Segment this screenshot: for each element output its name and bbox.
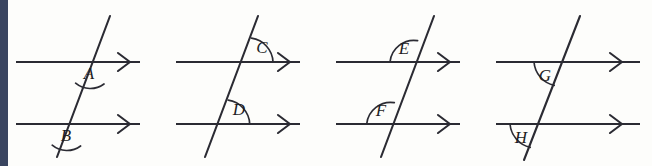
transversal-line bbox=[381, 16, 434, 157]
angle-arc-a bbox=[76, 83, 104, 88]
panel-2: C D bbox=[176, 16, 300, 157]
figure-canvas: A B C D E F bbox=[0, 0, 652, 166]
panel-1: A B bbox=[16, 16, 140, 157]
angle-label-d: D bbox=[232, 100, 246, 119]
angle-label-a: A bbox=[83, 64, 95, 83]
angle-label-c: C bbox=[256, 38, 268, 57]
angle-label-f: F bbox=[375, 101, 387, 120]
panel-3: E F bbox=[336, 16, 460, 157]
angle-arc-b bbox=[52, 145, 80, 150]
transversal-line bbox=[524, 16, 580, 160]
panel-4: G H bbox=[496, 16, 640, 160]
geometry-figure: A B C D E F bbox=[0, 0, 652, 166]
transversal-line bbox=[205, 16, 258, 157]
angle-label-g: G bbox=[539, 66, 551, 85]
angle-label-h: H bbox=[514, 128, 529, 147]
angle-label-e: E bbox=[398, 39, 410, 58]
angle-label-b: B bbox=[61, 126, 72, 145]
